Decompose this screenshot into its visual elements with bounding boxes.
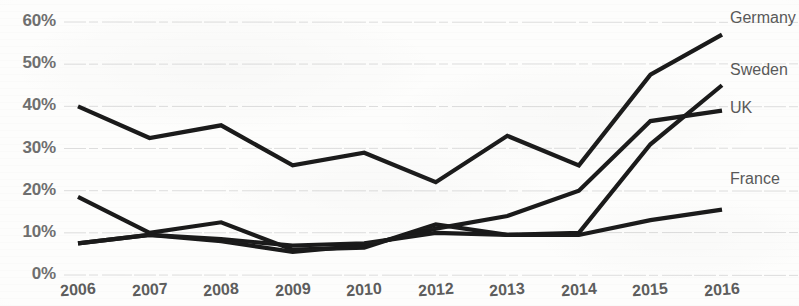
x-axis-tick-label: 2013 xyxy=(489,280,526,300)
x-axis-tick-label: 2014 xyxy=(560,280,597,300)
x-axis-tick-label: 2006 xyxy=(60,280,97,300)
y-axis-tick-label: 60% xyxy=(23,11,56,31)
y-axis-tick-label: 30% xyxy=(23,138,56,158)
series-label-france: France xyxy=(730,170,780,188)
x-axis-tick-label: 2007 xyxy=(131,280,168,300)
x-axis-tick-label: 2010 xyxy=(346,280,383,300)
series-lines xyxy=(78,35,722,252)
y-axis-tick-label: 10% xyxy=(23,222,56,242)
series-label-germany: Germany xyxy=(730,9,796,27)
y-axis-tick-label: 50% xyxy=(23,53,56,73)
x-axis-tick-label: 2009 xyxy=(274,280,311,300)
series-line-germany xyxy=(78,35,722,183)
line-chart: 60%50%40%30%20%10%0% 2006200720082009201… xyxy=(0,0,799,306)
x-axis-tick-label: 2012 xyxy=(417,280,454,300)
series-label-uk: UK xyxy=(730,99,752,117)
x-axis-tick-label: 2015 xyxy=(632,280,669,300)
x-axis-tick-label: 2008 xyxy=(203,280,240,300)
series-label-sweden: Sweden xyxy=(730,61,788,79)
y-axis-tick-label: 20% xyxy=(23,180,56,200)
chart-plot-area xyxy=(0,0,799,306)
x-axis-tick-label: 2016 xyxy=(704,280,741,300)
y-axis-tick-label: 0% xyxy=(32,264,56,284)
y-axis-tick-label: 40% xyxy=(23,95,56,115)
